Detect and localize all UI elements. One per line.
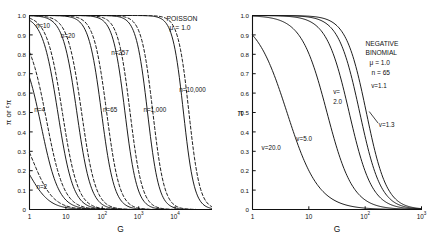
- right-y-tick-label: 0.7: [240, 70, 249, 77]
- left-curve-n=2: [30, 175, 212, 210]
- left-x-tick-label: 102: [97, 211, 107, 219]
- right-y-tick-label: 0.6: [240, 90, 249, 97]
- right-curve-v=20.0: [253, 35, 422, 209]
- left-y-tick-label: 1.0: [17, 12, 26, 19]
- left-y-tick-label: 0: [23, 206, 27, 213]
- right-curve-label: v=: [333, 88, 340, 95]
- right-curve-label: v=5.0: [296, 135, 312, 142]
- left-x-tick-label: 10: [62, 213, 70, 220]
- left-y-tick-label: 0.7: [17, 70, 26, 77]
- right-annotation-title-2: BINOMIAL: [366, 49, 398, 56]
- left-curve-n=1,000: [30, 16, 212, 210]
- left-y-tick-label: 0.6: [17, 90, 26, 97]
- right-curve-label: v=1.3: [379, 121, 395, 128]
- left-curve-label: n=257: [111, 49, 129, 56]
- left-y-tick-label: 0.9: [17, 32, 26, 39]
- right-x-tick-label: 1: [251, 213, 255, 220]
- left-y-axis-label: π or ᶜπ: [4, 99, 13, 125]
- left-y-tick-label: 0.4: [17, 129, 26, 136]
- left-curve-label: n=10: [36, 22, 51, 29]
- right-curve-label: v=1.1: [371, 82, 387, 89]
- left-curve-n=20d: [30, 16, 212, 210]
- left-curve-label: n=4: [34, 106, 45, 113]
- left-x-tick-label: 104: [170, 211, 180, 219]
- left-curve-label: n=10,000: [179, 86, 206, 93]
- right-leader-line: [369, 112, 378, 124]
- left-curve-n=257d: [30, 16, 212, 210]
- left-annotation-mu: μ = 1.0: [170, 24, 191, 32]
- left-curve-n=2d: [30, 153, 212, 210]
- right-x-tick-label: 103: [417, 211, 427, 219]
- right-x-tick-label: 10: [305, 213, 313, 220]
- right-y-tick-label: 0.4: [240, 129, 249, 136]
- left-curve-label: n=65: [103, 106, 118, 113]
- left-curve-label: n=20: [61, 32, 76, 39]
- right-y-tick-label: 1.0: [240, 12, 249, 19]
- figure-svg: 00.10.20.30.40.50.60.70.80.91.0110102103…: [0, 0, 439, 243]
- right-annotation-n: n = 65: [372, 69, 391, 76]
- left-annotation-title: POISSON: [167, 15, 198, 22]
- right-y-tick-label: 0.2: [240, 167, 249, 174]
- left-x-tick-label: 1: [28, 213, 32, 220]
- figure-container: 00.10.20.30.40.50.60.70.80.91.0110102103…: [0, 0, 439, 243]
- right-y-tick-label: 0.3: [240, 148, 249, 155]
- left-y-tick-label: 0.2: [17, 167, 26, 174]
- right-curve-label: 2.0: [333, 98, 342, 105]
- right-curve-label: v=20.0: [262, 144, 282, 151]
- left-y-tick-label: 0.5: [17, 109, 26, 116]
- left-x-tick-label: 103: [134, 211, 144, 219]
- left-y-tick-label: 0.1: [17, 187, 26, 194]
- left-curve-label: n=2: [36, 183, 47, 190]
- right-y-tick-label: 0: [246, 206, 250, 213]
- right-y-tick-label: 0.1: [240, 187, 249, 194]
- left-y-tick-label: 0.8: [17, 51, 26, 58]
- right-annotation-title-1: NEGATIVE: [366, 40, 399, 47]
- right-x-tick-label: 102: [360, 211, 370, 219]
- left-curve-n=20: [30, 16, 212, 210]
- right-y-axis-label: π: [238, 108, 244, 118]
- left-curve-n=65d: [30, 16, 212, 210]
- left-curve-label: n=1,000: [143, 106, 166, 113]
- right-y-tick-label: 0.9: [240, 32, 249, 39]
- left-y-tick-label: 0.3: [17, 148, 26, 155]
- left-curve-n=1,000d: [30, 16, 212, 210]
- right-annotation-mu: μ = 1.0: [370, 59, 391, 67]
- left-curve-n=10,000: [30, 16, 212, 209]
- right-y-tick-label: 0.8: [240, 51, 249, 58]
- left-x-axis-label: G: [117, 224, 124, 234]
- right-x-axis-label: G: [334, 224, 341, 234]
- left-curve-n=65: [30, 16, 212, 210]
- left-curve-n=10,000d: [30, 16, 212, 207]
- left-curve-n=257: [30, 16, 212, 210]
